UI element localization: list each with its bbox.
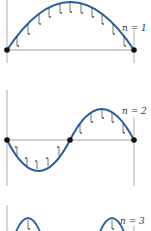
- panel-mode-3: n = 3: [7, 205, 145, 231]
- load-arrows: [17, 3, 124, 46]
- node-dot: [131, 47, 137, 53]
- panel-mode-1: n = 1: [4, 0, 147, 63]
- mode-label: n = 1: [122, 23, 147, 33]
- mode-shapes-diagram: n = 1 n = 2 n: [0, 0, 151, 231]
- node-dot: [4, 47, 10, 53]
- node-dot: [131, 137, 137, 143]
- load-arrows: [28, 220, 112, 229]
- node-dot: [4, 137, 10, 143]
- mode-curve: [7, 2, 134, 50]
- node-dot: [67, 137, 73, 143]
- panel-mode-2: n = 2: [4, 90, 147, 186]
- mode-label: n = 2: [122, 106, 147, 116]
- mode-label: n = 3: [120, 216, 145, 226]
